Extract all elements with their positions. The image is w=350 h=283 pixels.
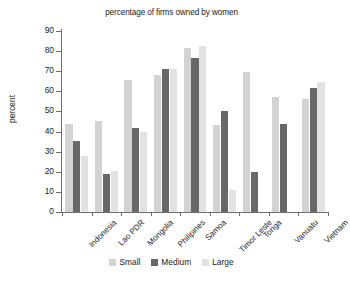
bar-medium [310,88,317,212]
bar-medium [103,174,110,212]
bar-group [269,31,299,212]
y-axis-tick-label: 10 [0,192,54,204]
y-axis-tick-label: 60 [0,91,54,103]
x-axis-tick [269,212,270,216]
x-axis-line [61,212,329,213]
x-axis-tick [328,212,329,216]
bar-small [243,72,250,212]
bar-large [81,156,88,212]
bar-group [239,31,269,212]
bar-large [199,46,206,212]
x-axis-category-label: Lao PDR [117,218,147,248]
x-axis-category-label: Samoa [203,218,228,243]
bar-small [154,75,161,212]
x-axis-tick [298,212,299,216]
x-axis-tick [92,212,93,216]
y-axis-tick-value: 40 [4,126,54,136]
bar-medium [251,172,258,212]
bar-medium [191,58,198,212]
bar-group [180,31,210,212]
x-axis-tick [62,212,63,216]
x-axis-tick [151,212,152,216]
legend-label: Large [212,258,233,266]
y-axis-tick-label: 20 [0,172,54,184]
bar-medium [162,69,169,212]
bar-medium [221,111,228,212]
bar-large [229,190,236,212]
x-axis-category-label: Vanuatu [293,218,320,245]
bar-large [170,69,177,212]
bar-group [151,31,181,212]
x-axis-tick [180,212,181,216]
bar-small [124,80,131,212]
x-axis-category-label: Philipines [176,218,207,249]
legend-label: Small [119,258,140,266]
bar-medium [132,128,139,212]
y-axis-tick-value: 30 [4,146,54,156]
y-axis-tick-label: 70 [0,71,54,83]
bar-small [302,99,309,212]
y-axis-tick-value: 20 [4,166,54,176]
legend-item-small[interactable]: Small [109,258,140,266]
plot-area [62,31,328,212]
x-axis-tick [121,212,122,216]
legend-item-medium[interactable]: Medium [151,258,191,266]
legend-label: Medium [161,258,191,266]
y-axis-tick-value: 60 [4,85,54,95]
x-axis-category-label: Vietnam [322,218,349,245]
bar-large [140,132,147,212]
y-axis-tick-label: 30 [0,152,54,164]
x-axis-tick [239,212,240,216]
bar-group [62,31,92,212]
legend-swatch-icon [109,259,116,266]
x-axis-category-label: Mongolia [146,218,176,248]
y-axis-tick-label: 0 [0,212,54,224]
bar-group [92,31,122,212]
y-axis-tick-label: 50 [0,111,54,123]
bar-group [210,31,240,212]
legend-item-large[interactable]: Large [202,258,233,266]
bar-small [184,48,191,212]
y-axis-tick-label: 40 [0,132,54,144]
bar-medium [280,124,287,212]
y-axis-tick-value: 90 [4,25,54,35]
y-axis-tick-value: 80 [4,45,54,55]
legend-swatch-icon [151,259,158,266]
bar-small [65,124,72,212]
x-axis-category-label: Indonesia [88,218,119,249]
bar-small [272,97,279,212]
x-axis-tick [210,212,211,216]
y-axis-tick-value: 10 [4,186,54,196]
bar-small [213,125,220,212]
y-axis-tick-value: 50 [4,105,54,115]
chart-title: percentage of firms owned by women [0,8,343,17]
bar-large [317,82,324,212]
y-axis-tick-label: 80 [0,51,54,63]
y-axis-tick-label: 90 [0,31,54,43]
bar-large [111,171,118,212]
chart-legend: SmallMediumLarge [0,258,343,266]
y-axis-tick-value: 70 [4,65,54,75]
bar-group [298,31,328,212]
legend-swatch-icon [202,259,209,266]
bar-group [121,31,151,212]
y-axis-tick-value: 0 [4,206,54,216]
bar-small [95,121,102,213]
bar-medium [73,141,80,212]
